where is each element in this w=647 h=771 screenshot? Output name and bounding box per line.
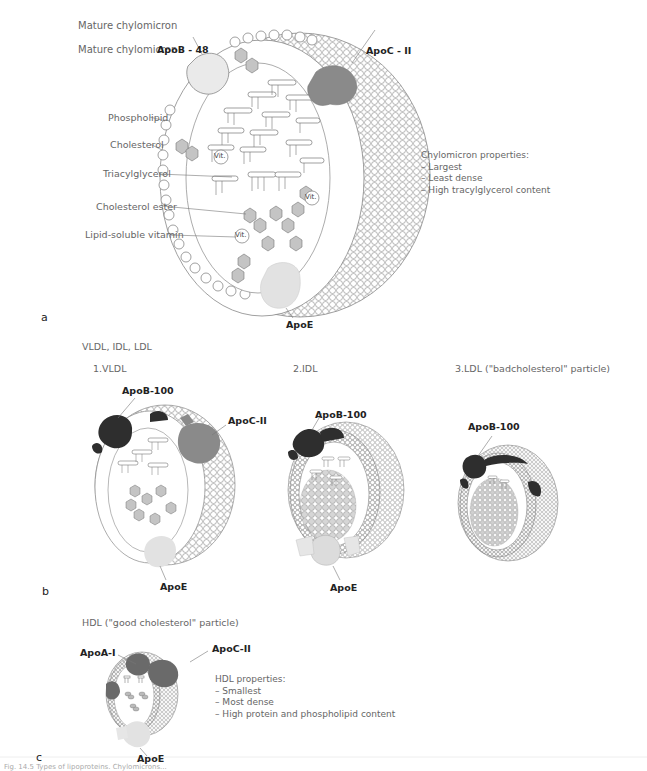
panel-b-title: VLDL, IDL, LDL bbox=[82, 341, 152, 352]
panel-c-title: HDL ("good cholesterol" particle) bbox=[82, 617, 239, 628]
label-apob48: ApoB - 48 bbox=[157, 44, 209, 55]
vldl-apob100 bbox=[98, 415, 132, 448]
label-idl-apoe: ApoE bbox=[330, 582, 357, 593]
lipoprotein-figure: Mature chylomicron Mature chylomicron Ap… bbox=[0, 0, 647, 771]
panel-a-title: Mature chylomicron bbox=[78, 20, 177, 31]
hdl-apoai bbox=[126, 653, 150, 675]
panel-letter-b: b bbox=[42, 585, 49, 598]
label-vit-1: Vit. bbox=[214, 152, 226, 160]
label-phospholipid: Phospholipid bbox=[108, 112, 168, 123]
label-vldl-apoe: ApoE bbox=[160, 581, 187, 592]
label-triacylglycerol: Triacylglycerol bbox=[103, 168, 171, 179]
label-cholesterol: Cholesterol bbox=[110, 139, 164, 150]
hdl-properties: HDL properties: – Smallest – Most dense … bbox=[215, 674, 395, 720]
vldl-apocii bbox=[178, 423, 220, 463]
label-vldl-apocii: ApoC-II bbox=[228, 415, 267, 426]
label-vit-2: Vit. bbox=[305, 193, 317, 201]
label-idl-apob100: ApoB-100 bbox=[315, 409, 367, 420]
ldl-apob100 bbox=[463, 455, 487, 479]
label-apoe-a: ApoE bbox=[286, 319, 313, 330]
label-lipid-soluble-vitamin: Lipid-soluble vitamin bbox=[85, 229, 184, 240]
label-cholesterol-ester: Cholesterol ester bbox=[96, 201, 177, 212]
figure-caption: Fig. 14.5 Types of lipoproteins. Chylomi… bbox=[4, 763, 167, 771]
label-apocii: ApoC - II bbox=[366, 45, 411, 56]
panel-letter-a: a bbox=[41, 311, 48, 324]
vldl-title: 1.VLDL bbox=[93, 363, 126, 374]
apob48-protein bbox=[187, 53, 229, 94]
label-vit-3: Vit. bbox=[235, 231, 247, 239]
label-ldl-apob100: ApoB-100 bbox=[468, 421, 520, 432]
label-vldl-apob100: ApoB-100 bbox=[122, 385, 174, 396]
ldl-title: 3.LDL ("badcholesterol" particle) bbox=[455, 363, 610, 374]
label-hdl-apoai: ApoA-I bbox=[80, 647, 116, 658]
chylomicron-properties: Chylomicron properties: – Largest – Leas… bbox=[421, 150, 550, 196]
chylomicron-particle bbox=[150, 30, 430, 318]
idl-title: 2.IDL bbox=[293, 363, 317, 374]
label-hdl-apocii: ApoC-II bbox=[212, 643, 251, 654]
idl-particle bbox=[288, 413, 404, 580]
idl-apoe bbox=[311, 535, 341, 565]
ldl-particle bbox=[458, 436, 558, 561]
hdl-particle bbox=[106, 651, 208, 756]
vldl-particle bbox=[92, 398, 235, 580]
